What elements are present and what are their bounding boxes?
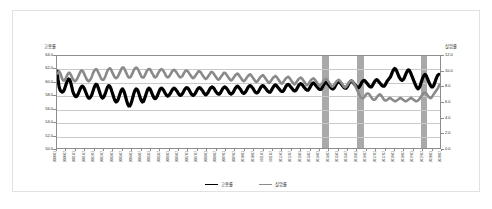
x-tick-label: 2012.01 (280, 151, 283, 162)
legend-label-employment: 고용률 (221, 181, 233, 187)
x-tick-label: 2015.07 (345, 151, 348, 162)
x-tick-label: 2012.07 (289, 151, 292, 162)
chart-legend: 고용률 실업률 (13, 178, 479, 190)
chart-frame: 고용률 실업률 64.062.060.058.056.054.052.050.0… (12, 10, 480, 192)
series-lines (57, 56, 440, 148)
x-tick-label: 2003.01 (111, 151, 114, 162)
right-tick-label: 0.0 (445, 147, 465, 151)
x-tick-label: 2009.07 (233, 151, 236, 162)
left-tick-label: 50.0 (33, 147, 53, 151)
right-tick-label: 8.0 (445, 84, 465, 88)
x-tick-label: 2008.01 (205, 151, 208, 162)
x-tick-label: 2011.07 (270, 151, 273, 162)
x-tick-label: 2005.07 (158, 151, 161, 162)
chart-figure: 고용률 실업률 64.062.060.058.056.054.052.050.0… (0, 0, 492, 209)
x-tick-label: 2007.01 (186, 151, 189, 162)
x-tick-label: 2019.01 (411, 151, 414, 162)
right-tick-mark (441, 86, 444, 87)
x-tick-label: 2004.01 (130, 151, 133, 162)
x-tick-label: 2019.07 (421, 151, 424, 162)
x-axis: 2000.012000.072001.012001.072002.012002.… (56, 149, 441, 175)
x-tick-label: 2007.07 (195, 151, 198, 162)
x-tick-label: 2010.07 (252, 151, 255, 162)
x-tick-label: 2018.01 (392, 151, 395, 162)
right-axis-title: 실업률 (445, 43, 457, 49)
x-tick-label: 2006.01 (167, 151, 170, 162)
right-tick-label: 12.0 (445, 53, 465, 57)
x-tick-label: 2005.01 (148, 151, 151, 162)
right-tick-label: 6.0 (445, 100, 465, 104)
x-tick-label: 2000.07 (64, 151, 67, 162)
left-tick-label: 64.0 (33, 53, 53, 57)
x-tick-label: 2017.01 (374, 151, 377, 162)
legend-item-employment: 고용률 (205, 181, 233, 187)
x-tick-label: 2011.01 (261, 151, 264, 162)
x-tick-label: 2014.07 (327, 151, 330, 162)
x-tick-label: 2000.01 (54, 151, 57, 162)
x-tick-label: 2017.07 (383, 151, 386, 162)
x-tick-label: 2003.07 (120, 151, 123, 162)
x-tick-label: 2013.07 (308, 151, 311, 162)
x-tick-label: 2001.01 (73, 151, 76, 162)
right-tick-mark (441, 118, 444, 119)
x-tick-label: 2020.07 (439, 151, 442, 162)
x-tick-label: 2018.07 (402, 151, 405, 162)
left-tick-label: 52.0 (33, 134, 53, 138)
plot-area (56, 55, 441, 149)
x-tick-label: 2016.01 (355, 151, 358, 162)
x-tick-label: 2009.01 (223, 151, 226, 162)
x-tick-label: 2002.07 (101, 151, 104, 162)
right-tick-mark (441, 133, 444, 134)
x-tick-label: 2008.07 (214, 151, 217, 162)
x-tick-label: 2006.07 (176, 151, 179, 162)
left-axis-title: 고용률 (44, 43, 56, 49)
left-tick-label: 62.0 (33, 66, 53, 70)
x-tick-label: 2014.01 (317, 151, 320, 162)
right-tick-label: 10.0 (445, 69, 465, 73)
right-tick-label: 4.0 (445, 116, 465, 120)
x-tick-label: 2013.01 (299, 151, 302, 162)
legend-item-unemployment: 실업률 (259, 181, 287, 187)
right-tick-label: 2.0 (445, 131, 465, 135)
plot-area-wrapper (56, 55, 441, 149)
right-tick-mark (441, 71, 444, 72)
left-tick-label: 54.0 (33, 120, 53, 124)
right-tick-mark (441, 55, 444, 56)
x-tick-label: 2010.01 (242, 151, 245, 162)
x-tick-label: 2002.01 (92, 151, 95, 162)
left-tick-label: 58.0 (33, 93, 53, 97)
right-tick-mark (441, 102, 444, 103)
x-tick-label: 2004.07 (139, 151, 142, 162)
left-tick-label: 56.0 (33, 107, 53, 111)
left-tick-label: 60.0 (33, 80, 53, 84)
legend-swatch-employment (205, 184, 218, 185)
x-tick-label: 2001.07 (83, 151, 86, 162)
x-tick-label: 2016.07 (364, 151, 367, 162)
legend-label-unemployment: 실업률 (275, 181, 287, 187)
x-tick-label: 2015.01 (336, 151, 339, 162)
legend-swatch-unemployment (259, 184, 272, 185)
x-tick-label: 2020.01 (430, 151, 433, 162)
